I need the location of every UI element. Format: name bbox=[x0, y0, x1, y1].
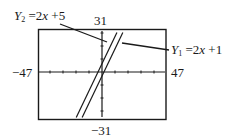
y2-const: 5 bbox=[59, 8, 66, 23]
plotted-lines bbox=[76, 32, 123, 117]
y1-leader-line bbox=[122, 43, 169, 50]
y2-x: x bbox=[42, 8, 48, 23]
equals-sign: = bbox=[28, 8, 35, 23]
y1-equation-label: Y1 =2x +1 bbox=[171, 43, 222, 60]
y2-equation-label: Y2 =2x +5 bbox=[14, 9, 65, 26]
ymin-label: −31 bbox=[91, 124, 111, 137]
xmax-label: 47 bbox=[171, 66, 184, 79]
y1-x: x bbox=[199, 42, 205, 57]
y2-line bbox=[76, 32, 117, 117]
ymax-label: 31 bbox=[94, 14, 107, 27]
y2-op: + bbox=[51, 8, 58, 23]
y1-op: + bbox=[208, 42, 215, 57]
y1-subscript: 1 bbox=[178, 49, 182, 58]
xmin-label: −47 bbox=[12, 66, 32, 79]
y1-const: 1 bbox=[216, 42, 223, 57]
y2-subscript: 2 bbox=[21, 15, 25, 24]
equals-sign: = bbox=[185, 42, 192, 57]
